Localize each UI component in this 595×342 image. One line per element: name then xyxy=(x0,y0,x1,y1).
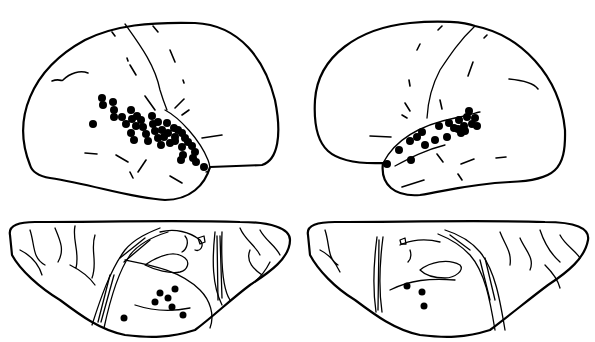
left-ventral-brain xyxy=(10,221,290,337)
left-lateral-brain xyxy=(23,23,278,200)
brain-figure xyxy=(0,0,595,342)
right-lateral-brain xyxy=(315,22,565,196)
left-ventral-markers xyxy=(121,286,187,322)
right-ventral-brain xyxy=(308,221,588,337)
right-lateral-markers xyxy=(383,107,481,168)
right-ventral-markers xyxy=(404,283,428,310)
